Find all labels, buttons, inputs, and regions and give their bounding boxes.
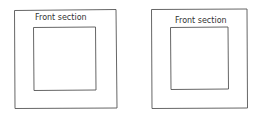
inner-square-right <box>171 27 229 90</box>
inner-square-left <box>34 27 97 91</box>
panel-right: Front section <box>152 9 248 109</box>
outer-square-left <box>15 10 118 109</box>
panel-left: Front section <box>15 10 118 109</box>
diagram-canvas: Front section Front section <box>0 0 260 123</box>
panel-label-left: Front section <box>35 13 87 22</box>
panel-label-right: Front section <box>175 16 227 25</box>
